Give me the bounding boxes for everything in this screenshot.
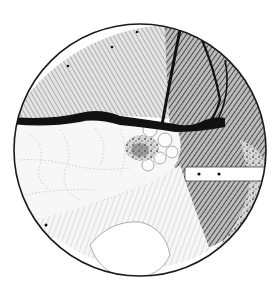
surgical-illustration xyxy=(0,0,280,292)
illustration-content xyxy=(0,0,280,292)
